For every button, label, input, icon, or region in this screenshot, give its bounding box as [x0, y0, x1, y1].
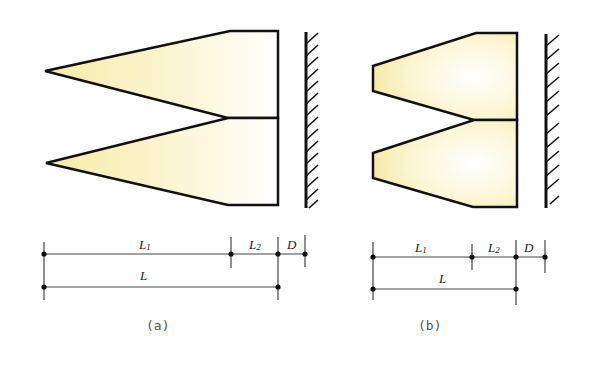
- upper-truncated-cone: [373, 33, 517, 120]
- lower-truncated-cone: [373, 120, 517, 207]
- label-L1-a: L1: [138, 237, 151, 252]
- label-L-a: L: [139, 268, 147, 283]
- dimensions-b: [373, 240, 545, 305]
- dimensions-a: [44, 235, 305, 300]
- label-D-a: D: [286, 237, 297, 252]
- hatched-wall-a: [306, 32, 318, 208]
- dimension-dots-a: [41, 251, 307, 289]
- caption-a: (a): [146, 318, 169, 333]
- label-L2-b: L2: [487, 240, 500, 255]
- hatched-wall-b: [546, 34, 559, 208]
- label-L2-a: L2: [248, 237, 261, 252]
- lower-pointed-cone: [46, 118, 278, 205]
- diagram-canvas: L1 L2 D L (a): [0, 0, 598, 368]
- label-L-b: L: [438, 271, 446, 286]
- panel-b: L1 L2 D L (b): [370, 33, 559, 333]
- upper-pointed-cone: [45, 31, 278, 118]
- label-L1-b: L1: [414, 240, 427, 255]
- dimension-dots-b: [370, 254, 547, 291]
- caption-b: (b): [418, 318, 441, 333]
- panel-a: L1 L2 D L (a): [41, 31, 318, 333]
- label-D-b: D: [523, 240, 534, 255]
